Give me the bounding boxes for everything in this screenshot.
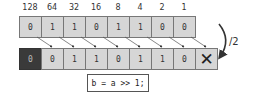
operation-label: /2 <box>229 36 239 47</box>
output-byte: 0 0 1 1 0 1 1 0 ✕ <box>19 48 217 70</box>
curved-arrow-icon <box>219 24 226 57</box>
code-expression: b = a >> 1; <box>87 74 149 92</box>
output-bit: 1 <box>129 48 152 70</box>
output-bit: 1 <box>85 48 108 70</box>
discarded-bit-x-icon: ✕ <box>195 48 218 70</box>
output-bit: 1 <box>63 48 86 70</box>
output-bit: 0 <box>173 48 196 70</box>
output-bit: 0 <box>41 48 64 70</box>
fill-bit: 0 <box>19 48 42 70</box>
output-bit: 1 <box>151 48 174 70</box>
output-bit: 0 <box>107 48 130 70</box>
